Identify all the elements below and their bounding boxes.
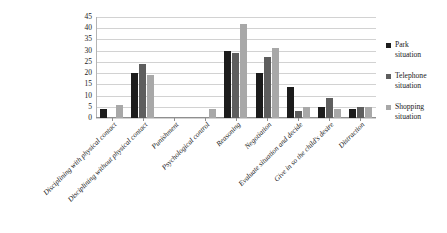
bar-group bbox=[252, 17, 283, 118]
bar bbox=[295, 111, 302, 118]
legend-label-line1: Telephone bbox=[395, 71, 427, 81]
y-axis-tick-15: 15 bbox=[85, 80, 93, 88]
bar bbox=[209, 109, 216, 118]
legend-label: Parksituation bbox=[395, 40, 421, 59]
legend-item[interactable]: Parksituation bbox=[386, 40, 447, 59]
bar-group bbox=[158, 17, 189, 118]
bar bbox=[334, 109, 341, 118]
x-axis-label: Negotiation bbox=[243, 120, 274, 151]
bar bbox=[357, 107, 364, 118]
y-axis-tick-25: 25 bbox=[85, 58, 93, 66]
bar bbox=[131, 73, 138, 118]
bar-group bbox=[314, 17, 345, 118]
bar-group bbox=[345, 17, 376, 118]
y-axis-tick-5: 5 bbox=[88, 103, 92, 111]
legend-label-line1: Park bbox=[395, 40, 421, 50]
bar bbox=[349, 109, 356, 118]
bar bbox=[287, 87, 294, 118]
bar bbox=[272, 48, 279, 118]
bar-group bbox=[127, 17, 158, 118]
legend-label: Shoppingsituation bbox=[395, 102, 424, 121]
bar-groups bbox=[96, 17, 376, 118]
legend-item[interactable]: Telephonesituation bbox=[386, 71, 447, 90]
legend-label-line2: situation bbox=[395, 81, 427, 91]
y-axis-tick-labels: 051015202530354045 bbox=[72, 17, 92, 118]
bar bbox=[365, 107, 372, 118]
legend-label-line2: situation bbox=[395, 112, 424, 122]
x-axis-label: Distraction bbox=[337, 120, 367, 150]
bar bbox=[224, 51, 231, 118]
chart-legend: ParksituationTelephonesituationShoppings… bbox=[386, 40, 447, 133]
bar-group bbox=[220, 17, 251, 118]
y-axis-tick-30: 30 bbox=[85, 47, 93, 55]
bar bbox=[100, 109, 107, 118]
y-axis-tick-35: 35 bbox=[85, 35, 93, 43]
y-axis-tick-20: 20 bbox=[85, 69, 93, 77]
plot-area bbox=[96, 17, 376, 118]
bar bbox=[318, 107, 325, 118]
x-axis-label: Punishment bbox=[149, 120, 180, 151]
legend-swatch-icon bbox=[386, 43, 391, 48]
bar bbox=[256, 73, 263, 118]
bar bbox=[116, 105, 123, 118]
bar-group bbox=[283, 17, 314, 118]
legend-label: Telephonesituation bbox=[395, 71, 427, 90]
legend-swatch-icon bbox=[386, 105, 391, 110]
bar bbox=[240, 24, 247, 118]
bar-group bbox=[96, 17, 127, 118]
bar bbox=[147, 75, 154, 118]
legend-label-line2: situation bbox=[395, 50, 421, 60]
y-axis-tick-40: 40 bbox=[85, 24, 93, 32]
bar bbox=[139, 64, 146, 118]
legend-item[interactable]: Shoppingsituation bbox=[386, 102, 447, 121]
bar bbox=[303, 107, 310, 118]
bar bbox=[232, 53, 239, 118]
x-axis-category-labels: Disciplining with physical contactDiscip… bbox=[96, 120, 376, 233]
y-axis-tick-0: 0 bbox=[88, 114, 92, 122]
bar-group bbox=[189, 17, 220, 118]
legend-swatch-icon bbox=[386, 74, 391, 79]
bar bbox=[264, 57, 271, 118]
legend-label-line1: Shopping bbox=[395, 102, 424, 112]
y-axis-tick-10: 10 bbox=[85, 92, 93, 100]
bar bbox=[326, 98, 333, 118]
bar-chart: 051015202530354045 Disciplining with phy… bbox=[0, 0, 447, 233]
x-axis-label: Give in so the child's desire bbox=[272, 120, 335, 183]
x-axis-label: Reasoning bbox=[214, 120, 242, 148]
y-axis-tick-45: 45 bbox=[85, 13, 93, 21]
